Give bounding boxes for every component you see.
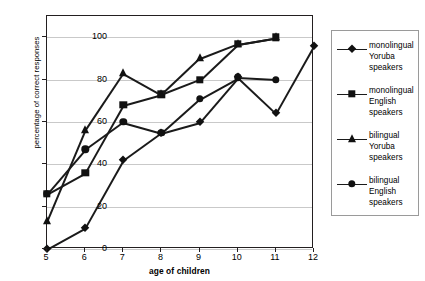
y-axis-title: percentage of correct responses xyxy=(32,13,41,173)
data-point-triangle xyxy=(119,69,127,77)
legend-label-line: speakers xyxy=(369,197,417,208)
x-tick-label: 5 xyxy=(33,252,59,262)
data-point-diamond xyxy=(271,109,280,118)
legend-label-line: speakers xyxy=(369,107,417,118)
x-tick-mark xyxy=(160,248,161,252)
legend-label-line: English xyxy=(369,186,417,197)
legend-label: monolingualYorubaspeakers xyxy=(369,40,417,74)
plot-area xyxy=(46,15,313,248)
data-point-triangle xyxy=(234,39,242,47)
series-line-segment xyxy=(199,78,238,123)
data-point-triangle xyxy=(157,90,165,98)
series-line-segment xyxy=(199,78,238,100)
x-tick-label: 7 xyxy=(109,252,135,262)
y-tick-mark xyxy=(42,36,46,37)
data-point-square xyxy=(196,76,203,83)
legend-point xyxy=(348,134,356,142)
x-tick-mark xyxy=(275,248,276,252)
legend-label-line: Yoruba xyxy=(369,141,417,152)
legend-marker-diamond-icon xyxy=(337,44,367,54)
series-line-segment xyxy=(84,160,123,229)
series-line-segment xyxy=(238,37,276,45)
data-point-square xyxy=(81,169,88,176)
x-tick-label: 11 xyxy=(262,252,288,262)
x-tick-mark xyxy=(84,248,85,252)
legend-item-4: bilingualEnglishspeakers xyxy=(337,175,417,209)
data-point-circle xyxy=(158,129,165,136)
y-tick-label: 60 xyxy=(79,116,107,126)
legend-label-line: Yoruba xyxy=(369,51,417,62)
series-line-segment xyxy=(46,150,85,195)
legend-label-line: monolingual xyxy=(369,40,417,51)
data-point-circle xyxy=(272,76,279,83)
legend-label-line: speakers xyxy=(369,62,417,73)
y-tick-mark xyxy=(42,79,46,80)
legend-marker-triangle-icon xyxy=(337,134,367,144)
x-tick-label: 12 xyxy=(300,252,326,262)
chart-legend: monolingualYorubaspeakersmonolingualEngl… xyxy=(331,30,419,216)
legend-label-line: English xyxy=(369,96,417,107)
legend-label: bilingualEnglishspeakers xyxy=(369,175,417,209)
legend-marker-circle-icon xyxy=(337,179,367,189)
legend-point xyxy=(348,90,355,97)
legend-label: monolingualEnglishspeakers xyxy=(369,85,417,119)
series-line-segment xyxy=(237,78,276,115)
x-tick-mark xyxy=(46,248,47,252)
legend-label: bilingualYorubaspeakers xyxy=(369,130,417,164)
x-tick-label: 8 xyxy=(147,252,173,262)
series-line-segment xyxy=(123,133,162,162)
x-tick-mark xyxy=(237,248,238,252)
legend-item-2: monolingualEnglishspeakers xyxy=(337,85,417,119)
series-line-segment xyxy=(199,44,238,60)
series-line-segment xyxy=(161,59,200,96)
legend-point xyxy=(347,44,356,53)
x-tick-mark xyxy=(122,248,123,252)
x-axis-title: age of children xyxy=(46,266,313,276)
legend-item-3: bilingualYorubaspeakers xyxy=(337,130,417,164)
series-line-segment xyxy=(85,122,124,151)
series-line-segment xyxy=(123,73,162,95)
x-tick-label: 9 xyxy=(186,252,212,262)
data-point-triangle xyxy=(196,54,204,62)
x-tick-label: 10 xyxy=(224,252,250,262)
series-line-segment xyxy=(123,94,162,106)
y-tick-label: 40 xyxy=(79,158,107,168)
data-point-triangle xyxy=(43,217,51,225)
legend-label-line: bilingual xyxy=(369,130,417,141)
legend-item-1: monolingualYorubaspeakers xyxy=(337,40,417,74)
data-point-triangle xyxy=(81,126,89,134)
series-line-segment xyxy=(199,44,238,81)
data-point-square xyxy=(120,101,127,108)
data-point-circle xyxy=(81,146,88,153)
x-tick-mark xyxy=(199,248,200,252)
y-tick-mark xyxy=(42,121,46,122)
x-tick-label: 6 xyxy=(71,252,97,262)
y-tick-label: 20 xyxy=(79,201,107,211)
data-point-circle xyxy=(196,95,203,102)
data-point-triangle xyxy=(272,33,280,41)
legend-label-line: monolingual xyxy=(369,85,417,96)
series-line-segment xyxy=(238,77,276,81)
series-line-segment xyxy=(123,122,162,134)
legend-label-line: bilingual xyxy=(369,175,417,186)
legend-marker-square-icon xyxy=(337,89,367,99)
series-line-segment xyxy=(275,46,314,115)
y-tick-mark xyxy=(42,163,46,164)
y-tick-label: 100 xyxy=(79,31,107,41)
y-tick-label: 80 xyxy=(79,74,107,84)
legend-point xyxy=(348,180,355,187)
legend-label-line: speakers xyxy=(369,152,417,163)
y-tick-mark xyxy=(42,206,46,207)
series-layer xyxy=(47,16,312,247)
chart-figure: percentage of correct responses 02040608… xyxy=(0,0,425,281)
x-tick-mark xyxy=(313,248,314,252)
